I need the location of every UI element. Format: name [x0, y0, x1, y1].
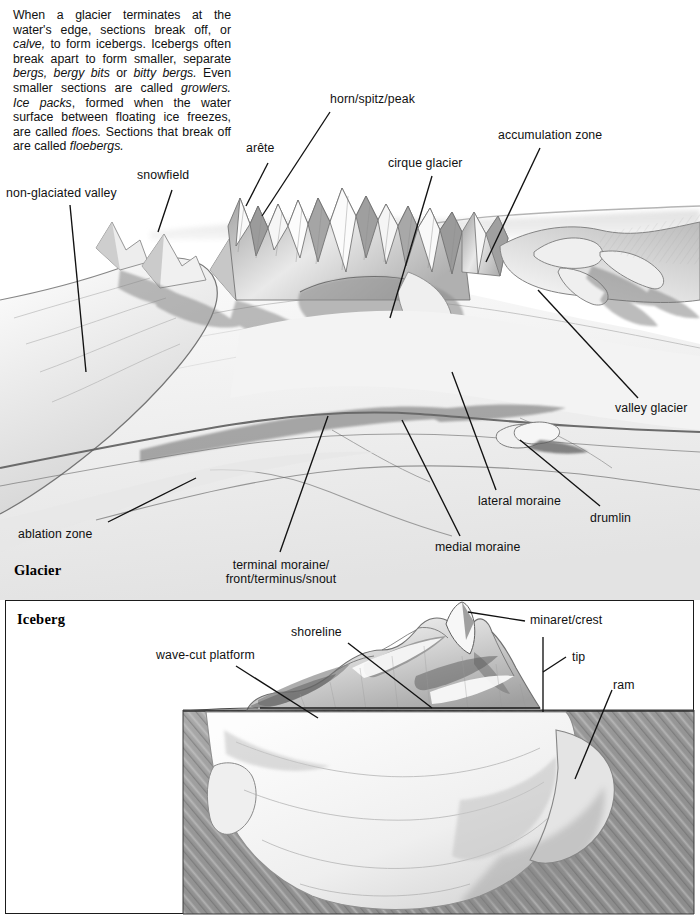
label-minaret-crest: minaret/crest	[530, 613, 602, 627]
label-tip: tip	[572, 650, 585, 664]
iceberg-drawing	[0, 0, 700, 918]
label-wave-cut-platform: wave-cut platform	[156, 648, 255, 662]
illustration-page: When a glacier terminates at the water's…	[0, 0, 700, 918]
iceberg-caption: Iceberg	[17, 611, 65, 628]
label-ram: ram	[613, 678, 634, 692]
label-shoreline: shoreline	[291, 625, 342, 639]
